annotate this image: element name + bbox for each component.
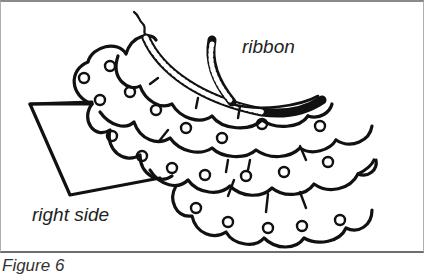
- right-side-label: right side: [32, 205, 109, 224]
- thread: [134, 12, 146, 36]
- ribbon: [146, 38, 322, 113]
- figure-caption: Figure 6: [2, 257, 64, 274]
- ribbon-label: ribbon: [242, 37, 295, 56]
- fabric-piece: [30, 104, 160, 195]
